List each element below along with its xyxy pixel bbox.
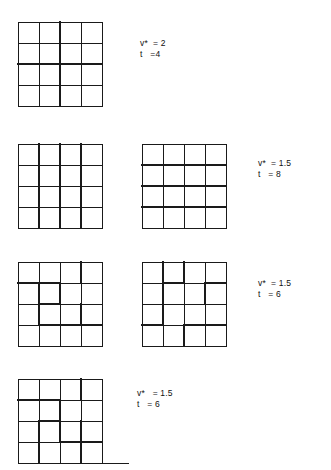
- grid-canvas: [138, 258, 230, 350]
- annotation-v-star: v* = 1.5: [258, 278, 291, 289]
- grid-diagram: [14, 18, 106, 110]
- grid-diagram: [14, 258, 106, 350]
- figure-row: v* = 2t =4: [0, 18, 331, 118]
- grid-canvas: [14, 140, 106, 232]
- grid-annotation: v* = 1.5t = 6: [137, 388, 173, 410]
- annotation-t: t =4: [140, 49, 166, 60]
- annotation-v-star: v* = 1.5: [258, 158, 291, 169]
- figure-row: v* = 1.5t = 6: [0, 258, 331, 358]
- grid-diagram: [14, 375, 132, 467]
- annotation-t: t = 8: [258, 169, 291, 180]
- annotation-v-star: v* = 1.5: [137, 388, 173, 399]
- grid-diagram: [138, 140, 230, 232]
- grid-annotation: v* = 2t =4: [140, 38, 166, 60]
- grid-canvas: [14, 258, 106, 350]
- grid-diagram: [138, 258, 230, 350]
- annotation-t: t = 6: [258, 289, 291, 300]
- figure-root: v* = 2t =4v* = 1.5t = 8v* = 1.5t = 6v* =…: [0, 0, 331, 470]
- grid-diagram: [14, 140, 106, 232]
- grid-canvas: [138, 140, 230, 232]
- annotation-v-star: v* = 2: [140, 38, 166, 49]
- grid-annotation: v* = 1.5t = 6: [258, 278, 291, 300]
- grid-annotation: v* = 1.5t = 8: [258, 158, 291, 180]
- grid-canvas: [14, 375, 132, 467]
- annotation-t: t = 6: [137, 399, 173, 410]
- figure-row: v* = 1.5t = 8: [0, 140, 331, 240]
- grid-canvas: [14, 18, 106, 110]
- figure-row: v* = 1.5t = 6: [0, 375, 331, 470]
